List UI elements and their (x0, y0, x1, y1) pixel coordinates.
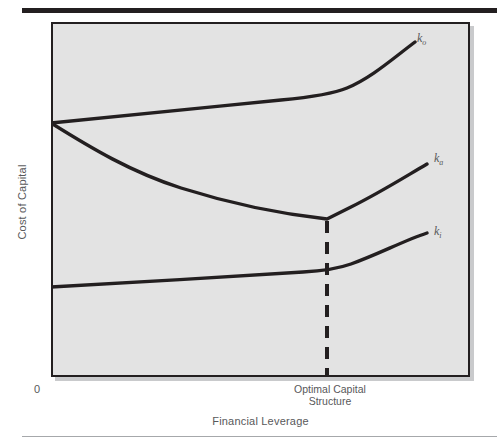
optimal-label-line-1: Optimal Capital (255, 383, 405, 395)
bottom-divider-rule (22, 436, 497, 437)
curve-label-ko-subscript: o (422, 38, 426, 47)
curve-label-ki: ki (434, 224, 442, 240)
curve-label-ka: ka (434, 151, 443, 167)
curve-label-ko: ko (417, 31, 426, 47)
chart-canvas (51, 22, 470, 377)
figure-container: ko ka ki Cost of Capital 0 Optimal Capit… (0, 0, 501, 441)
y-axis-title: Cost of Capital (16, 142, 28, 262)
axis-origin-label: 0 (34, 383, 40, 395)
optimal-capital-structure-label: Optimal Capital Structure (255, 383, 405, 407)
optimal-label-line-2: Structure (255, 395, 405, 407)
series-ko-line (51, 42, 415, 123)
series-ka-line (51, 123, 427, 219)
curve-label-ki-subscript: i (439, 231, 441, 240)
series-ki-line (51, 233, 427, 287)
x-axis-title: Financial Leverage (51, 415, 470, 427)
top-divider-rule (22, 8, 497, 13)
curve-label-ka-subscript: a (439, 158, 443, 167)
